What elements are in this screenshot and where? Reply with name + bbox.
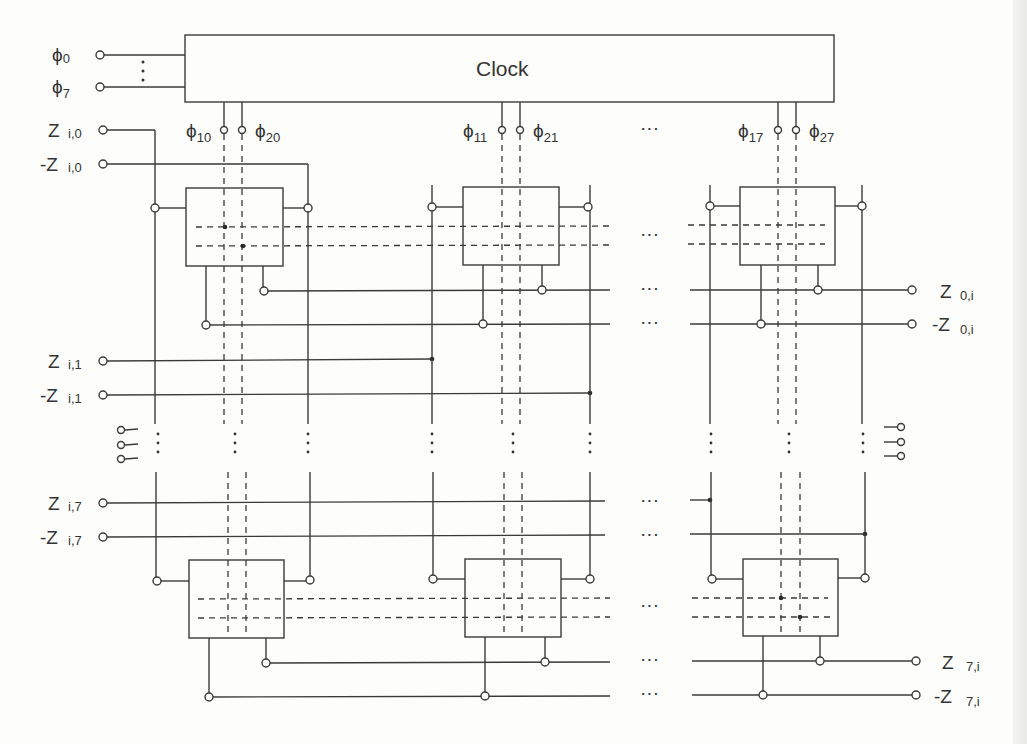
cell-7-1: [429, 559, 594, 700]
terminal-icon[interactable]: [99, 357, 107, 365]
svg-text:-Z: -Z: [40, 527, 58, 548]
svg-text:-Z: -Z: [40, 154, 58, 175]
cell-7-0: [153, 560, 314, 701]
phase-input-phi0: ϕ0: [52, 44, 185, 66]
svg-text:Z: Z: [48, 120, 60, 141]
cell-0-0: [151, 188, 312, 329]
terminal-icon[interactable]: [499, 127, 506, 134]
terminal-icon[interactable]: [221, 127, 228, 134]
svg-text:ϕ10: ϕ10: [186, 120, 211, 145]
svg-text:i,0: i,0: [68, 160, 82, 175]
svg-text:ϕ11: ϕ11: [463, 120, 487, 145]
svg-text:i,7: i,7: [68, 499, 82, 514]
svg-text:i,1: i,1: [68, 391, 82, 406]
clock-block: Clock: [185, 35, 834, 102]
svg-text:···: ···: [640, 682, 659, 703]
svg-text:ϕ17: ϕ17: [738, 120, 763, 145]
vertical-ellipsis-icon: [142, 61, 145, 82]
svg-text:0,i: 0,i: [960, 322, 974, 337]
svg-text:7,i: 7,i: [966, 694, 980, 709]
terminal-icon[interactable]: [96, 83, 104, 91]
column-output-continuation-stubs: [884, 424, 905, 460]
cell-7-7: [708, 559, 869, 699]
terminal-icon[interactable]: [99, 499, 107, 507]
svg-text:i,7: i,7: [68, 533, 82, 548]
svg-text:···: ···: [640, 648, 659, 669]
svg-text:ϕ20: ϕ20: [255, 120, 280, 145]
terminal-icon[interactable]: [99, 160, 107, 168]
terminal-icon[interactable]: [239, 127, 246, 134]
terminal-icon[interactable]: [775, 127, 782, 134]
svg-text:ϕ27: ϕ27: [809, 120, 834, 145]
svg-text:Z: Z: [48, 493, 60, 514]
svg-text:i,1: i,1: [68, 357, 82, 372]
svg-text:ϕ0: ϕ0: [52, 44, 70, 66]
terminal-icon[interactable]: [99, 533, 107, 541]
svg-text:···: ···: [640, 489, 659, 510]
row-input-z-i1: Z i,1: [48, 351, 434, 372]
systolic-clock-array-diagram: Clock ϕ0 ϕ7 ϕ10 ϕ20 ϕ11 ϕ21 ϕ17 ϕ27: [0, 0, 1027, 744]
svg-text:7,i: 7,i: [966, 659, 980, 674]
svg-text:-Z: -Z: [932, 314, 950, 335]
cell-0-1: [428, 187, 592, 328]
clock-taps-col-1: ϕ11 ϕ21: [463, 102, 558, 145]
column-output-negz-7i: -Z 7,i ···: [210, 682, 980, 709]
svg-text:Z: Z: [940, 281, 952, 302]
terminal-icon[interactable]: [99, 391, 107, 399]
horizontal-ellipsis: ···: [640, 223, 659, 244]
svg-text:···: ···: [640, 523, 659, 544]
phase-input-phi7: ϕ7: [52, 76, 185, 101]
horizontal-ellipsis: ···: [640, 117, 659, 138]
terminal-icon[interactable]: [793, 127, 800, 134]
svg-text:i,0: i,0: [68, 126, 82, 141]
svg-text:ϕ7: ϕ7: [52, 76, 70, 101]
cell-0-7: [706, 187, 866, 328]
row-input-z-i7: Z i,7 ···: [48, 489, 712, 514]
terminal-icon[interactable]: [99, 126, 107, 134]
row-input-negz-i7: -Z i,7 ···: [40, 523, 867, 548]
clock-taps-col-7: ϕ17 ϕ27: [738, 102, 834, 145]
svg-text:···: ···: [640, 277, 659, 298]
terminal-icon[interactable]: [912, 657, 920, 665]
horizontal-ellipsis: ···: [640, 594, 659, 615]
svg-text:Z: Z: [942, 652, 954, 673]
row-input-negz-i1: -Z i,1: [40, 385, 592, 406]
terminal-icon[interactable]: [517, 127, 524, 134]
row-input-continuation-stubs: [118, 427, 139, 463]
svg-text:-Z: -Z: [934, 686, 952, 707]
terminal-icon[interactable]: [912, 691, 920, 699]
clock-taps-col-0: ϕ10 ϕ20: [186, 102, 280, 145]
svg-text:0,i: 0,i: [960, 288, 974, 303]
vertical-ellipsis-icons: [157, 433, 865, 454]
terminal-icon[interactable]: [96, 51, 104, 59]
column-output-z-0i: Z 0,i ···: [265, 277, 974, 303]
terminal-icon[interactable]: [908, 320, 916, 328]
svg-text:-Z: -Z: [40, 385, 58, 406]
svg-text:···: ···: [640, 311, 659, 332]
svg-text:ϕ21: ϕ21: [533, 120, 558, 145]
terminal-icon[interactable]: [908, 286, 916, 294]
svg-text:Z: Z: [48, 351, 60, 372]
clock-label: Clock: [476, 57, 529, 80]
column-output-z-7i: Z 7,i ···: [270, 648, 980, 674]
